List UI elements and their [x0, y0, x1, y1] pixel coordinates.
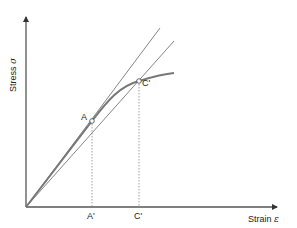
x-axis-label-text: Strain — [248, 214, 272, 224]
stress-strain-curve — [26, 73, 174, 207]
y-axis-label: Stress σ — [8, 58, 18, 92]
x-axis-label: Strain ε — [248, 215, 279, 224]
diagram-canvas — [0, 0, 297, 228]
secant-line — [26, 41, 174, 207]
y-axis-label-text: Stress — [8, 66, 18, 92]
point-a-marker — [90, 119, 95, 124]
stress-strain-diagram: Stress σ A C' A' C' Strain ε — [0, 0, 297, 228]
x-tick-c-prime: C' — [134, 212, 142, 221]
point-c-label: C' — [142, 79, 150, 88]
point-c-marker — [137, 79, 142, 84]
sigma-symbol: σ — [8, 58, 18, 64]
point-a-label: A — [81, 113, 87, 122]
x-tick-a-prime: A' — [87, 212, 95, 221]
epsilon-symbol: ε — [274, 214, 279, 224]
